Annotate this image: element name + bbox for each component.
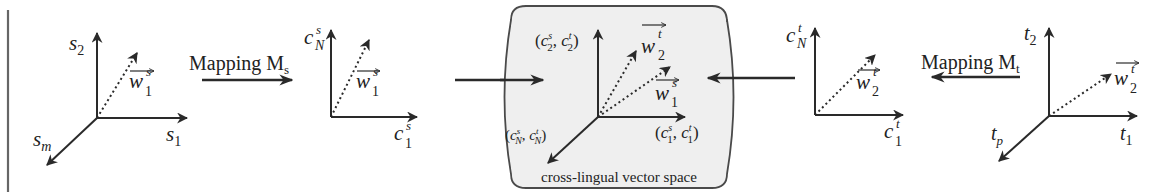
- vector-label-w1s: w s 1: [356, 64, 380, 99]
- cross-lingual-caption: cross-lingual vector space: [541, 169, 697, 185]
- axis-label-tp: tp: [991, 122, 1004, 148]
- svg-text:w: w: [1114, 66, 1128, 90]
- axis-label-s2: s2: [69, 31, 84, 58]
- target-concept-space: c t N c t 1 w t 2: [786, 20, 903, 149]
- mapping-ms-label: Mapping Ms: [189, 52, 289, 77]
- svg-text:2: 2: [658, 48, 665, 63]
- svg-text:s: s: [672, 75, 677, 90]
- cross-lingual-vector-space: (cs2, ct2) (cs1, ct1) (csN, ctN) w t 2 w…: [500, 6, 734, 188]
- axis-label-cNs-sub: N: [314, 38, 325, 53]
- svg-text:s: s: [146, 64, 151, 79]
- svg-text:w: w: [356, 69, 370, 93]
- axis-label-cNt-sub: N: [796, 36, 807, 51]
- axis-label-c2s-c2t: (cs2, ct2): [535, 30, 579, 53]
- svg-text:w: w: [641, 34, 655, 58]
- target-language-space: t2 t1 tp w t 2: [991, 22, 1139, 161]
- axis-tp-arrow: [999, 116, 1049, 161]
- svg-text:t: t: [658, 26, 662, 41]
- source-language-space: s2 s1 sm w s 1: [33, 31, 187, 165]
- axis-label-t2: t2: [1024, 22, 1037, 48]
- vector-w2t-dotted-arrow: [1049, 74, 1111, 116]
- svg-text:1: 1: [145, 84, 152, 99]
- svg-text:w: w: [129, 69, 143, 93]
- mapping-mt-label: Mapping Mt: [921, 51, 1020, 76]
- axis-label-sm: sm: [33, 127, 51, 154]
- axis-label-c1s-sub: 1: [405, 136, 412, 151]
- svg-text:w: w: [856, 70, 870, 94]
- axis-label-cNs-sup: s: [316, 22, 321, 37]
- svg-text:1: 1: [671, 95, 678, 110]
- axis-label-s1: s1: [166, 122, 181, 149]
- axis-label-c1s-c1t: (cs1, ct1): [655, 122, 699, 145]
- axis-label-c1t-sub: 1: [895, 134, 902, 149]
- vector-label-w1s: w s 1: [129, 64, 154, 99]
- svg-text:t: t: [873, 64, 877, 79]
- cross-lingual-mapping-diagram: s2 s1 sm w s 1 Mapping Ms c s N c s 1 w …: [0, 0, 1159, 196]
- axis-label-c1s-sup: s: [406, 118, 411, 133]
- svg-text:2: 2: [1130, 81, 1137, 96]
- source-concept-space: c s N c s 1 w s 1: [304, 22, 417, 151]
- axis-label-cNs: c: [304, 25, 314, 49]
- axis-label-c1s: c: [394, 121, 404, 145]
- svg-text:2: 2: [872, 84, 879, 99]
- mapping-ms-step: Mapping Ms: [189, 52, 292, 80]
- axis-label-cNt: c: [786, 23, 796, 47]
- vector-label-w2t: w t 2: [856, 64, 880, 99]
- axis-label-c1t: c: [884, 119, 894, 143]
- svg-text:s: s: [373, 64, 378, 79]
- vector-label-w2t: w t 2: [1114, 61, 1139, 96]
- mapping-mt-step: Mapping Mt: [921, 51, 1020, 77]
- svg-text:w: w: [655, 81, 669, 105]
- axis-label-t1: t1: [1120, 122, 1133, 148]
- svg-text:t: t: [1131, 61, 1135, 76]
- axis-sm-arrow: [47, 118, 97, 165]
- svg-text:1: 1: [372, 84, 379, 99]
- axis-label-cNt-sup: t: [798, 20, 802, 35]
- axis-label-c1t-sup: t: [896, 116, 900, 131]
